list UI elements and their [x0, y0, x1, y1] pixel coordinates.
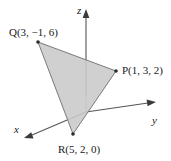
y-axis-label: y — [151, 114, 157, 126]
triangle-pqr-face — [38, 42, 116, 134]
x-axis-label: x — [13, 123, 19, 135]
coordinate-system-figure: x y z Q(3, −1, 6) P(1, 3, 2) R(5, 2, 0) — [0, 0, 171, 161]
vertex-dot-r — [71, 132, 75, 136]
y-axis-line — [86, 103, 148, 112]
vertex-dot-q — [36, 40, 40, 44]
point-label-r: R(5, 2, 0) — [58, 143, 101, 156]
y-axis-arrowhead — [147, 99, 156, 106]
point-label-q: Q(3, −1, 6) — [9, 26, 58, 39]
vertex-dot-p — [114, 69, 118, 73]
z-axis-arrowhead — [83, 9, 90, 18]
x-axis-arrowhead — [24, 132, 34, 138]
figure-container: x y z Q(3, −1, 6) P(1, 3, 2) R(5, 2, 0) — [0, 0, 171, 161]
point-label-p: P(1, 3, 2) — [122, 64, 163, 77]
z-axis-label: z — [76, 4, 82, 16]
